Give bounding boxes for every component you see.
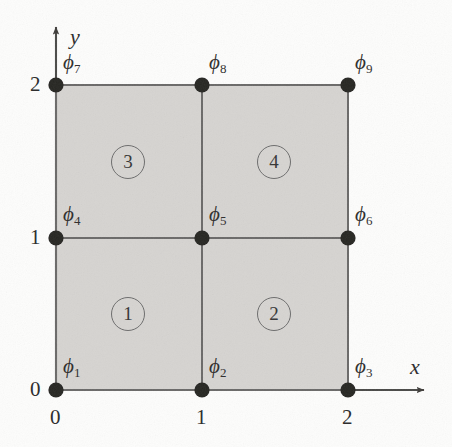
phi-symbol: ϕ	[63, 202, 74, 226]
phi-subscript: 3	[366, 365, 373, 380]
y-tick-2: 2	[30, 74, 41, 95]
phi-subscript: 8	[220, 61, 227, 76]
node-label-phi4: ϕ4	[63, 204, 80, 227]
node-label-phi2: ϕ2	[209, 356, 226, 379]
phi-subscript: 1	[74, 365, 81, 380]
phi-subscript: 7	[74, 61, 81, 76]
x-axis-label: x	[410, 356, 420, 378]
phi-symbol: ϕ	[355, 202, 366, 226]
element-number-2: 2	[257, 297, 291, 331]
element-number-1: 1	[111, 297, 145, 331]
phi-subscript: 2	[220, 365, 227, 380]
node-label-phi7: ϕ7	[63, 52, 80, 75]
node-label-phi6: ϕ6	[355, 204, 372, 227]
x-tick-1: 1	[196, 407, 207, 428]
node-label-phi3: ϕ3	[355, 356, 372, 379]
phi-subscript: 5	[220, 213, 227, 228]
phi-symbol: ϕ	[209, 50, 220, 74]
figure-canvas: y x 2 1 0 0 1 2 ϕ1 ϕ2 ϕ3 ϕ4 ϕ5 ϕ6 ϕ7 ϕ8 …	[0, 0, 452, 447]
y-tick-1: 1	[30, 227, 41, 248]
x-tick-0: 0	[50, 407, 61, 428]
phi-symbol: ϕ	[355, 50, 366, 74]
node-dot-phi7	[48, 77, 63, 92]
y-tick-0: 0	[30, 379, 41, 400]
phi-subscript: 9	[366, 61, 373, 76]
node-label-phi5: ϕ5	[209, 204, 226, 227]
phi-symbol: ϕ	[209, 354, 220, 378]
phi-symbol: ϕ	[355, 354, 366, 378]
node-dot-phi5	[194, 230, 209, 245]
node-dot-phi4	[48, 230, 63, 245]
x-tick-2: 2	[342, 407, 353, 428]
phi-subscript: 6	[366, 213, 373, 228]
node-dot-phi8	[194, 77, 209, 92]
node-dot-phi3	[340, 382, 355, 397]
phi-symbol: ϕ	[63, 50, 74, 74]
phi-symbol: ϕ	[63, 354, 74, 378]
node-label-phi1: ϕ1	[63, 356, 80, 379]
node-dot-phi9	[340, 77, 355, 92]
element-number-4: 4	[257, 145, 291, 179]
element-number-3: 3	[111, 145, 145, 179]
node-dot-phi6	[340, 230, 355, 245]
phi-symbol: ϕ	[209, 202, 220, 226]
phi-subscript: 4	[74, 213, 81, 228]
y-axis-label: y	[70, 26, 80, 48]
node-dot-phi2	[194, 382, 209, 397]
node-label-phi9: ϕ9	[355, 52, 372, 75]
node-dot-phi1	[48, 382, 63, 397]
node-label-phi8: ϕ8	[209, 52, 226, 75]
